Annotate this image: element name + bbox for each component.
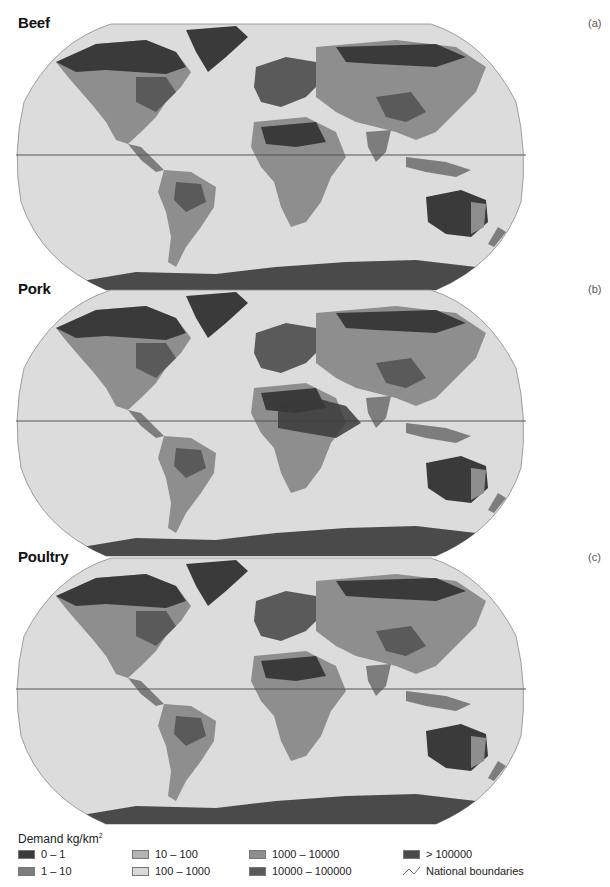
legend-swatch [18,867,35,876]
legend-item: 10 – 100 [132,848,198,860]
panel-pork: Pork (b) [0,280,610,555]
panel-beef: Beef (a) [0,14,610,289]
legend-item: 10000 – 100000 [249,865,352,877]
legend-item: 100 – 1000 [132,865,210,877]
legend-swatch [249,850,266,859]
world-map-beef [16,22,526,297]
panel-tag: (b) [588,283,601,295]
panel-tag: (a) [588,17,601,29]
legend-swatch [249,867,266,876]
legend-swatch [132,867,149,876]
legend-item: > 100000 [403,848,472,860]
legend-item: 1 – 10 [18,865,72,877]
world-map-pork [16,288,526,563]
world-map-poultry [16,556,526,831]
legend-title: Demand kg/km2 [18,832,103,846]
polyline-icon [403,866,420,876]
legend-swatch [132,850,149,859]
legend-item: National boundaries [403,865,524,877]
legend-item: 0 – 1 [18,848,65,860]
legend-item: 1000 – 10000 [249,848,339,860]
map-legend: Demand kg/km2 0 – 1 1 – 10 10 – 100 100 … [18,832,610,887]
legend-swatch [18,850,35,859]
panel-tag: (c) [588,551,601,563]
legend-swatch [403,850,420,859]
panel-poultry: Poultry (c) [0,548,610,823]
